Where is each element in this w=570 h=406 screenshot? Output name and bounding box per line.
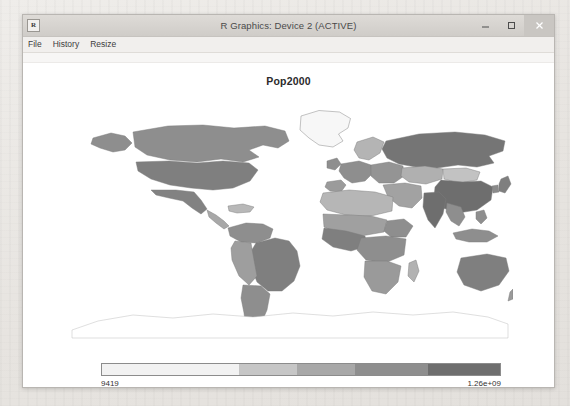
region-horn-of-africa (384, 219, 413, 237)
country-brazil (250, 238, 300, 291)
country-colombia-venezuela (228, 223, 273, 243)
region-iberia (325, 180, 346, 192)
menu-item-history[interactable]: History (53, 37, 79, 52)
country-russia (382, 132, 505, 168)
country-india (423, 192, 446, 228)
minimize-icon[interactable] (472, 15, 498, 36)
maximize-icon[interactable] (498, 15, 524, 36)
legend-band-2 (239, 364, 297, 375)
country-alaska (91, 133, 132, 152)
region-north-africa (320, 190, 393, 216)
close-icon[interactable] (524, 15, 554, 36)
legend-tick-labels: 9419 1.26e+09 (101, 379, 501, 387)
plot-title: Pop2000 (23, 75, 554, 87)
world-map-svg (63, 95, 513, 350)
legend-band-1 (102, 364, 239, 375)
toolbar-strip (23, 53, 554, 63)
country-philippines (476, 210, 487, 224)
country-united-states (136, 161, 258, 190)
menu-item-file[interactable]: File (28, 37, 42, 52)
region-scandinavia (354, 137, 384, 160)
region-british-isles (327, 158, 341, 170)
region-western-europe (339, 161, 372, 183)
country-canada (133, 125, 289, 162)
region-southern-africa (364, 261, 401, 294)
menu-item-resize[interactable]: Resize (90, 37, 116, 52)
legend-max-label: 1.26e+09 (467, 379, 501, 387)
region-central-asia (401, 166, 443, 184)
country-madagascar (408, 260, 419, 282)
country-mexico (151, 190, 207, 214)
region-caribbean (228, 204, 254, 213)
country-australia (457, 254, 509, 291)
country-greenland (300, 111, 351, 148)
legend-band-4 (355, 364, 429, 375)
country-indonesia (453, 229, 498, 242)
country-japan (499, 176, 511, 193)
color-legend: 9419 1.26e+09 (101, 363, 501, 387)
window-controls (472, 15, 554, 36)
region-korea (492, 185, 499, 193)
window-title-bar[interactable]: R R Graphics: Device 2 (ACTIVE) (23, 15, 554, 37)
region-eastern-europe (371, 162, 404, 183)
legend-gradient-bar (101, 363, 501, 376)
legend-min-label: 9419 (101, 379, 119, 387)
world-choropleth-map (63, 95, 513, 350)
legend-band-3 (297, 364, 355, 375)
region-central-america (207, 210, 229, 229)
r-app-icon: R (27, 19, 40, 32)
plot-canvas: Pop2000 (23, 63, 554, 387)
r-graphics-window: R R Graphics: Device 2 (ACTIVE) File His… (22, 14, 555, 388)
region-central-africa (357, 236, 406, 263)
legend-band-5 (428, 364, 500, 375)
menu-bar: File History Resize (23, 37, 554, 53)
country-new-zealand (508, 289, 513, 301)
continent-antarctica (72, 312, 508, 338)
